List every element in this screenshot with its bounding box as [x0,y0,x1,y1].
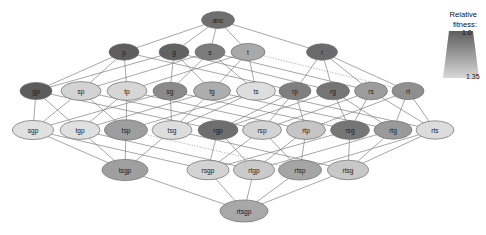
graph-node-gp[interactable]: gp [20,82,52,99]
graph-node-p[interactable]: p [109,44,139,60]
graph-node-rt[interactable]: rt [392,82,424,99]
graph-node-sgp[interactable]: sgp [13,120,54,139]
graph-node-r[interactable]: r [307,44,338,60]
legend-gradient-swatch [443,31,479,78]
graph-node-rg[interactable]: rg [317,82,350,100]
graph-node-rtsgp[interactable]: rtsgp [220,200,268,222]
graph-node-rtg[interactable]: rtg [374,121,412,139]
node-ellipse [355,82,388,100]
graph-node-rts[interactable]: rts [416,121,454,139]
node-ellipse [328,160,369,180]
node-ellipse [392,82,424,99]
graph-edge [36,52,174,91]
node-ellipse [187,160,229,180]
legend-title-line1: Relative [450,10,477,19]
legend-tick-top: 1.0 [462,29,472,36]
graph-node-s[interactable]: s [195,44,225,60]
graph-node-sp[interactable]: sp [61,82,101,101]
graph-node-rsgp[interactable]: rsgp [187,160,229,180]
graph-node-rp[interactable]: rp [279,82,311,99]
graph-node-t[interactable]: t [231,44,265,61]
graph-node-rsp[interactable]: rsp [243,121,282,140]
graph-node-tp[interactable]: tp [107,82,147,101]
node-ellipse [234,160,275,180]
legend-tick-bottom: 1.35 [466,73,480,80]
graph-node-rtsp[interactable]: rtsp [279,160,322,180]
node-ellipse [416,121,454,139]
node-ellipse [279,160,322,180]
node-ellipse [61,82,101,101]
node-ellipse [231,44,265,61]
fitness-landscape-diagram: ancpgstrgpsptpsgtgtsrprgrsrtsgptgptsptsg… [0,0,486,235]
node-ellipse [107,82,147,101]
graph-node-anc[interactable]: anc [202,12,235,29]
node-ellipse [374,121,412,139]
graph-node-g[interactable]: g [159,44,189,60]
node-ellipse [109,44,139,60]
node-ellipse [152,121,192,140]
graph-node-tgp[interactable]: tgp [60,121,100,140]
graph-node-rs[interactable]: rs [355,82,388,100]
node-ellipse [317,82,350,100]
node-ellipse [237,82,276,100]
legend-title-line2: fitness: [453,20,477,29]
node-ellipse [194,82,231,100]
node-ellipse [105,120,148,140]
graph-edge [33,91,170,130]
graph-node-ts[interactable]: ts [237,82,276,100]
graph-node-tsgp[interactable]: tsgp [102,159,148,180]
node-ellipse [331,121,370,140]
node-ellipse [102,159,148,180]
node-ellipse [279,82,311,99]
graph-node-tsp[interactable]: tsp [105,120,148,140]
node-ellipse [195,44,225,60]
node-ellipse [153,82,187,100]
node-ellipse [220,200,268,222]
node-ellipse [60,121,100,140]
graph-node-rtgp[interactable]: rtgp [234,160,275,180]
graph-node-rtsg[interactable]: rtsg [328,160,369,180]
node-ellipse [287,121,326,140]
graph-node-sg[interactable]: sg [153,82,187,100]
fitness-legend: Relative fitness: 1.0 1.35 [443,10,480,80]
node-ellipse [159,44,189,60]
node-ellipse [13,120,54,139]
graph-node-rtp[interactable]: rtp [287,121,326,140]
graph-node-tg[interactable]: tg [194,82,231,100]
node-ellipse [20,82,52,99]
graph-node-rgp[interactable]: rgp [198,120,238,139]
graph-node-rsg[interactable]: rsg [331,121,370,140]
node-ellipse [243,121,282,140]
node-ellipse [307,44,338,60]
node-ellipse [198,120,238,139]
graph-node-tsg[interactable]: tsg [152,121,192,140]
node-ellipse [202,12,235,29]
